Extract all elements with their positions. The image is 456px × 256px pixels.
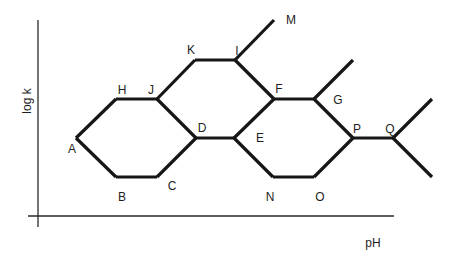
vertex-label-F: F xyxy=(275,82,282,96)
vertex-label-O: O xyxy=(315,190,324,204)
vertex-label-H: H xyxy=(118,83,127,97)
vertex-label-K: K xyxy=(187,43,195,57)
vertex-label-D: D xyxy=(198,121,207,135)
edge-A-H xyxy=(76,99,116,138)
vertex-label-Q: Q xyxy=(385,122,394,136)
edge-I-M xyxy=(235,20,274,60)
vertex-label-I: I xyxy=(235,44,238,58)
vertex-label-N: N xyxy=(266,190,275,204)
pathway-edges xyxy=(76,20,432,177)
vertex-label-M: M xyxy=(286,13,296,27)
edge-Q-Q_down_end xyxy=(393,138,432,177)
vertex-label-G: G xyxy=(333,93,342,107)
vertex-label-B: B xyxy=(118,190,126,204)
edge-J-K xyxy=(157,60,195,99)
edge-J-D xyxy=(157,99,196,138)
vertex-label-J: J xyxy=(148,83,154,97)
edge-O-P xyxy=(314,138,353,177)
vertex-label-C: C xyxy=(168,179,177,193)
edge-E-F xyxy=(234,99,274,138)
vertex-label-A: A xyxy=(68,142,76,156)
edge-A-B xyxy=(76,138,116,177)
x-axis-label: pH xyxy=(365,236,380,250)
axes: log k pH xyxy=(20,20,394,250)
edge-I-F xyxy=(235,60,274,99)
edge-Q-Q_up_end xyxy=(393,99,432,138)
vertex-label-E: E xyxy=(256,131,264,145)
vertex-labels: ABCDEFGHIJKMNOPQ xyxy=(68,13,395,204)
y-axis-label: log k xyxy=(20,87,34,113)
edge-E-N xyxy=(234,138,273,177)
reaction-pathway-diagram: log k pH ABCDEFGHIJKMNOPQ xyxy=(0,0,456,256)
edge-C-D xyxy=(157,138,196,177)
vertex-label-P: P xyxy=(353,122,361,136)
